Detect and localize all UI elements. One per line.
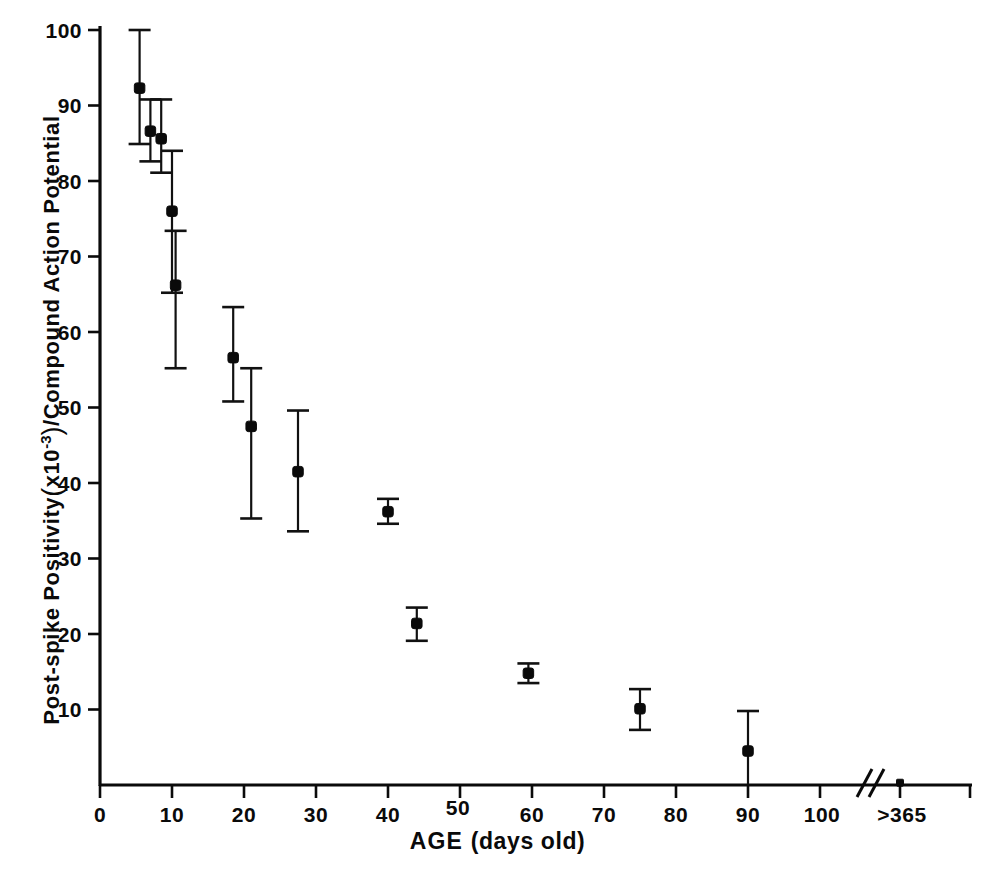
x-tick-label: 10 bbox=[160, 803, 184, 826]
x-tick-label: 0 bbox=[94, 803, 106, 826]
data-point-group bbox=[222, 307, 244, 401]
y-tick-label: 100 bbox=[45, 19, 82, 42]
scatter-plot: 100 90 80 70 60 50 40 30 20 10 0 10 20 3… bbox=[0, 0, 995, 875]
data-point-marker bbox=[293, 466, 304, 477]
x-tick-labels: 0 10 20 30 40 50 60 70 80 90 100 >365 bbox=[94, 796, 927, 826]
y-tick-label: 90 bbox=[58, 94, 82, 117]
figure-canvas: 100 90 80 70 60 50 40 30 20 10 0 10 20 3… bbox=[0, 0, 995, 875]
x-tick-label: 80 bbox=[664, 803, 688, 826]
y-tick-label: 60 bbox=[58, 321, 82, 344]
data-point-marker bbox=[170, 280, 181, 291]
y-tick-labels: 100 90 80 70 60 50 40 30 20 10 bbox=[45, 19, 82, 721]
y-tick-label: 30 bbox=[58, 547, 82, 570]
y-tick-label: 40 bbox=[58, 472, 82, 495]
data-point-group bbox=[139, 99, 161, 161]
x-tick-marks bbox=[100, 785, 900, 798]
y-tick-label: 80 bbox=[58, 170, 82, 193]
y-tick-label: 50 bbox=[58, 396, 82, 419]
x-tick-label: 40 bbox=[376, 803, 400, 826]
data-point-marker bbox=[228, 352, 239, 363]
x-tick-label: 70 bbox=[592, 803, 616, 826]
x-axis-title-unit: (days old) bbox=[471, 828, 586, 854]
data-point-marker bbox=[145, 126, 156, 137]
data-point-group bbox=[377, 499, 399, 524]
data-point-marker bbox=[897, 779, 904, 786]
x-axis-title-main: AGE bbox=[410, 828, 463, 854]
data-point-marker bbox=[167, 206, 178, 217]
x-tick-label: 100 bbox=[804, 803, 841, 826]
axis-break-icon bbox=[857, 769, 884, 797]
x-tick-label: 50 bbox=[446, 796, 470, 819]
y-tick-marks bbox=[88, 30, 100, 710]
data-point-marker bbox=[134, 83, 145, 94]
x-tick-label: 30 bbox=[304, 803, 328, 826]
data-point-marker bbox=[743, 746, 754, 757]
data-point-marker bbox=[383, 506, 394, 517]
data-point-marker bbox=[635, 703, 646, 714]
y-tick-label: 20 bbox=[58, 623, 82, 646]
data-point-group bbox=[517, 663, 539, 683]
data-point-group bbox=[240, 368, 262, 518]
y-tick-label: 10 bbox=[58, 698, 82, 721]
data-points-layer bbox=[129, 30, 904, 786]
data-point-marker bbox=[156, 133, 167, 144]
x-tick-label: 60 bbox=[520, 803, 544, 826]
data-point-marker bbox=[246, 421, 257, 432]
data-point-marker bbox=[412, 618, 423, 629]
data-point-group bbox=[737, 711, 759, 784]
data-point-marker bbox=[523, 668, 534, 679]
x-tick-label-over-365: >365 bbox=[877, 803, 926, 826]
data-point-group bbox=[165, 231, 187, 368]
x-tick-label: 20 bbox=[232, 803, 256, 826]
x-tick-label: 90 bbox=[736, 803, 760, 826]
data-point-group bbox=[406, 608, 428, 641]
data-point-group bbox=[287, 411, 309, 532]
x-axis-title: AGE (days old) bbox=[0, 828, 995, 855]
data-point-group bbox=[629, 689, 651, 730]
data-point-group bbox=[897, 779, 904, 786]
y-tick-label: 70 bbox=[58, 245, 82, 268]
